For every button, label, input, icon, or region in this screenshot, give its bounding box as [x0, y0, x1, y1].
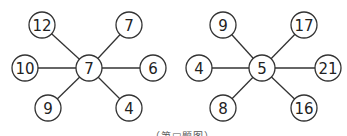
node-value: 12 [32, 17, 51, 35]
node-value: 6 [148, 60, 158, 78]
star-diagrams: 1271069479174218165 [0, 0, 347, 136]
outer-node: 6 [140, 55, 166, 81]
node-value: 16 [294, 100, 313, 118]
left-star: 127106947 [12, 12, 166, 121]
outer-node: 21 [315, 55, 341, 81]
outer-node: 16 [291, 95, 317, 121]
node-value: 4 [124, 100, 134, 118]
node-value: 21 [318, 60, 337, 78]
outer-node: 8 [210, 95, 236, 121]
outer-node: 7 [116, 12, 142, 38]
outer-node: 10 [12, 55, 38, 81]
node-value: 5 [257, 60, 267, 78]
outer-node: 4 [116, 95, 142, 121]
node-value: 9 [43, 100, 53, 118]
center-node: 7 [76, 55, 102, 81]
node-value: 9 [218, 17, 228, 35]
node-value: 7 [84, 60, 94, 78]
node-value: 8 [218, 100, 228, 118]
outer-node: 9 [35, 95, 61, 121]
outer-node: 17 [291, 12, 317, 38]
node-value: 7 [124, 17, 134, 35]
node-value: 10 [15, 60, 34, 78]
center-node: 5 [249, 55, 275, 81]
outer-node: 12 [29, 12, 55, 38]
node-value: 17 [294, 17, 313, 35]
node-value: 4 [194, 60, 204, 78]
outer-node: 9 [210, 12, 236, 38]
outer-node: 4 [186, 55, 212, 81]
figure-caption: （第□题图） [150, 128, 215, 136]
right-star: 9174218165 [186, 12, 341, 121]
